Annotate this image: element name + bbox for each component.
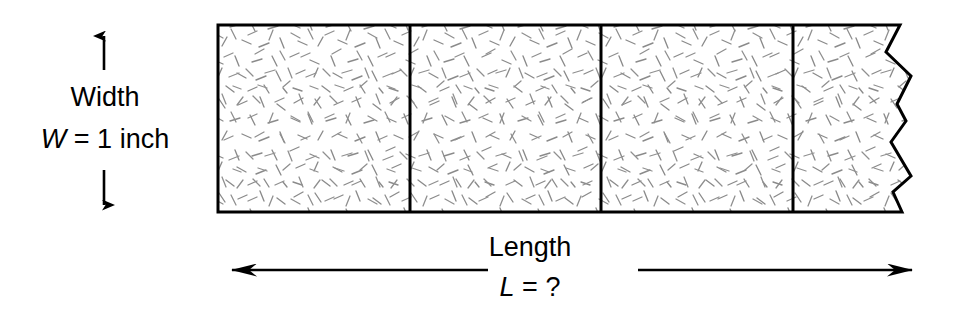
length-value-label: L = ? [440, 274, 620, 301]
length-value-unknown: ? [545, 272, 560, 302]
width-label: Width [0, 84, 210, 111]
ribbon-texture-fill-overlay [218, 25, 911, 212]
length-variable-symbol: L [500, 272, 515, 302]
length-equals-sign: = [522, 272, 538, 302]
width-value-label: W = 1 inch [0, 126, 210, 153]
ribbon-diagram-figure: Width W = 1 inch Length L = ? [0, 0, 959, 320]
width-value-spacer [90, 124, 98, 154]
ribbon-shape [218, 25, 911, 212]
length-label: Length [440, 234, 620, 261]
figure-canvas [0, 0, 959, 320]
width-value-number: 1 inch [97, 124, 169, 154]
width-equals-symbol [66, 124, 74, 154]
width-equals-sign: = [74, 124, 90, 154]
width-variable-symbol: W [41, 124, 66, 154]
length-value-spacer-1 [515, 272, 523, 302]
